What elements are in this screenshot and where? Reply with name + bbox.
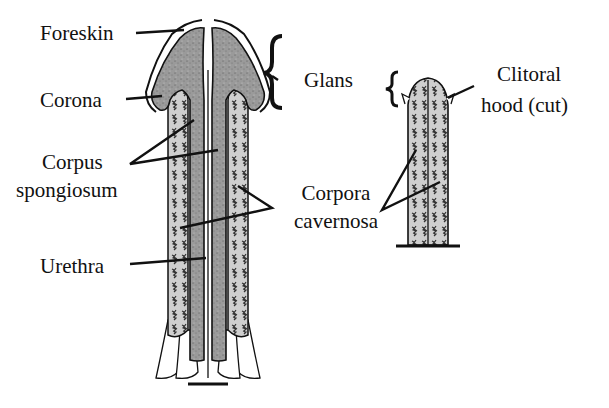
label-cavernosa: cavernosa — [280, 209, 392, 233]
label-corpora: Corpora — [286, 181, 386, 205]
label-urethra: Urethra — [40, 254, 104, 278]
clitoris-diagram — [396, 78, 460, 246]
label-clitoral: Clitoral — [497, 62, 561, 86]
label-corona: Corona — [40, 88, 102, 112]
corpus-cavernosum-right — [228, 88, 248, 337]
label-corpus: Corpus — [42, 150, 103, 174]
label-foreskin: Foreskin — [40, 21, 114, 45]
label-spongiosum: spongiosum — [16, 178, 118, 202]
glans-brace-small — [386, 72, 398, 106]
label-glans: Glans — [304, 68, 353, 92]
label-hood-cut: hood (cut) — [481, 93, 568, 117]
penis-diagram — [146, 20, 270, 384]
glans-brace-large — [264, 36, 282, 108]
